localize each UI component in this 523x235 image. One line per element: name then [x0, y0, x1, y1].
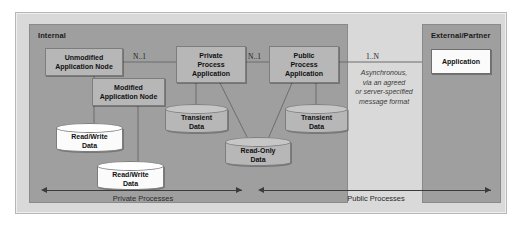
- datastore-transient-2[interactable]: Transient Data: [285, 104, 348, 133]
- unmodified-line1: Unmodified: [53, 53, 115, 62]
- tr2-line1: Transient: [285, 113, 348, 122]
- datastore-transient-1-label: Transient Data: [165, 113, 228, 131]
- modified-line2: Application Node: [98, 92, 160, 101]
- node-unmodified-application[interactable]: Unmodified Application Node: [45, 48, 123, 76]
- async-line2: via an agreed: [350, 78, 418, 88]
- node-modified-application[interactable]: Modified Application Node: [92, 78, 165, 106]
- tr2-line2: Data: [285, 122, 348, 131]
- span-label-private-processes: Private Processes: [44, 194, 242, 203]
- datastore-read-write-1-label: Read/Write Data: [56, 132, 123, 150]
- zone-internal-label: Internal: [38, 31, 66, 40]
- node-external-application[interactable]: Application: [431, 49, 491, 74]
- public-line3: Application: [283, 69, 325, 78]
- rw2-line2: Data: [97, 179, 164, 188]
- span-arrowhead-private-right: [236, 187, 242, 193]
- node-private-process-application[interactable]: Private Process Application: [176, 46, 246, 83]
- public-line2: Process: [283, 60, 325, 69]
- rw1-line1: Read/Write: [56, 132, 123, 141]
- private-line3: Application: [190, 69, 232, 78]
- datastore-read-only-label: Read-Only Data: [225, 146, 291, 164]
- span-arrowhead-public-right: [485, 187, 491, 193]
- span-line-public: [261, 190, 491, 191]
- diagram-canvas: Internal External/Partner: [0, 0, 523, 235]
- tr1-line2: Data: [165, 122, 228, 131]
- public-line1: Public: [283, 51, 325, 60]
- private-line2: Process: [190, 60, 232, 69]
- async-line1: Asynchronous,: [350, 68, 418, 78]
- span-arrowhead-private-left: [41, 187, 47, 193]
- external-application-label: Application: [440, 57, 482, 66]
- datastore-transient-1[interactable]: Transient Data: [165, 104, 228, 133]
- async-line4: message format: [350, 97, 418, 107]
- span-arrowhead-public-left: [258, 187, 264, 193]
- unmodified-line2: Application Node: [53, 62, 115, 71]
- multiplicity-public-to-external: 1..N: [366, 52, 379, 61]
- span-label-public-processes: Public Processes: [261, 194, 491, 203]
- modified-line1: Modified: [98, 83, 160, 92]
- datastore-read-write-2[interactable]: Read/Write Data: [97, 161, 164, 190]
- datastore-transient-2-label: Transient Data: [285, 113, 348, 131]
- multiplicity-unmodified-to-private: N..1: [133, 52, 146, 61]
- datastore-read-write-2-label: Read/Write Data: [97, 170, 164, 188]
- ro-line2: Data: [225, 155, 291, 164]
- rw2-line1: Read/Write: [97, 170, 164, 179]
- diagram-frame: Internal External/Partner: [15, 12, 507, 214]
- node-public-process-application[interactable]: Public Process Application: [269, 46, 339, 83]
- datastore-read-only[interactable]: Read-Only Data: [225, 137, 291, 166]
- span-line-private: [44, 190, 242, 191]
- tr1-line1: Transient: [165, 113, 228, 122]
- rw1-line2: Data: [56, 141, 123, 150]
- zone-external-partner-label: External/Partner: [431, 31, 491, 40]
- private-line1: Private: [190, 51, 232, 60]
- async-line3: or server-specified: [350, 87, 418, 97]
- datastore-read-write-1[interactable]: Read/Write Data: [56, 123, 123, 152]
- async-annotation: Asynchronous, via an agreed or server-sp…: [350, 68, 418, 106]
- multiplicity-private-to-public: N..1: [248, 52, 261, 61]
- ro-line1: Read-Only: [225, 146, 291, 155]
